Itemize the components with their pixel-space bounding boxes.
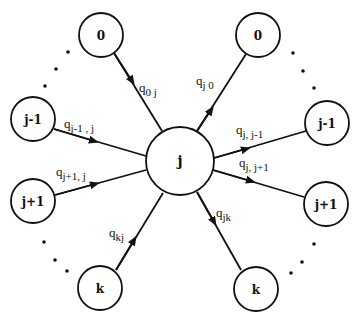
edge-label-qkj: qkj xyxy=(109,225,124,243)
node-in-j-plus-1: j+1 xyxy=(11,179,55,223)
node-in-j-minus-1: j-1 xyxy=(11,97,55,141)
node-label: j+1 xyxy=(21,195,45,209)
node-label: j+1 xyxy=(314,198,338,212)
node-in-0: 0 xyxy=(79,13,123,57)
node-out-k: k xyxy=(234,267,278,311)
ellipsis-top-left xyxy=(43,50,70,88)
edge-arrow-j-to-k xyxy=(197,192,214,222)
node-out-j-plus-1: j+1 xyxy=(304,182,348,226)
node-label: k xyxy=(252,283,261,297)
ellipsis-bottom-right xyxy=(289,242,316,275)
edge-label-qjp1j: qj+1, j xyxy=(56,164,86,182)
edge-arrow-k-to-j xyxy=(116,240,134,270)
edge-label-qjk: qjk xyxy=(216,205,232,223)
edge-label-qjm1j: qj-1 , j xyxy=(64,116,94,134)
transition-diagram: j 0 j-1 j+1 k 0 j-1 j+1 k q0 j qj-1 , j … xyxy=(0,0,360,326)
node-label: 0 xyxy=(254,29,262,43)
edge-label-q0j: q0 j xyxy=(139,80,157,98)
node-label: 0 xyxy=(97,29,105,43)
edge-label-qjjp1: qj, j+1 xyxy=(239,155,269,173)
center-node-label: j xyxy=(175,153,182,169)
node-out-0: 0 xyxy=(236,13,280,57)
node-label: j-1 xyxy=(23,113,42,127)
edge-arrow-jp1-to-j xyxy=(55,184,95,195)
node-label: j-1 xyxy=(317,117,336,131)
node-in-k: k xyxy=(78,266,122,310)
node-out-j-minus-1: j-1 xyxy=(305,101,349,145)
ellipsis-top-right xyxy=(291,51,316,90)
ellipsis-bottom-left xyxy=(42,240,69,273)
edge-arrow-0-to-j xyxy=(114,53,132,81)
node-label: k xyxy=(96,282,105,296)
center-node: j xyxy=(146,127,214,195)
edge-label-qj0: qj 0 xyxy=(196,73,214,91)
edge-arrow-j-to-0 xyxy=(197,110,211,131)
edge-label-qjjm1: qj, j-1 xyxy=(236,122,263,140)
